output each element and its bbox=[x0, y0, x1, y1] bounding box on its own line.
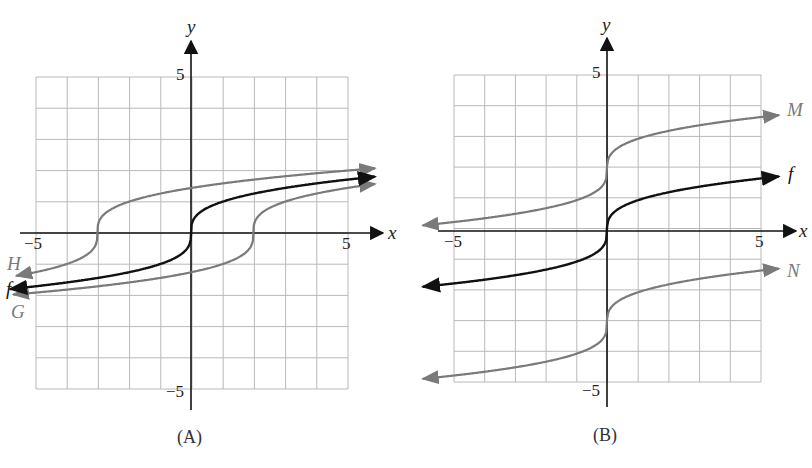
panel-a-y-label: y bbox=[185, 16, 196, 37]
panel-b-x-label: x bbox=[798, 220, 808, 241]
panel-b-tick-x-pos: 5 bbox=[755, 232, 764, 251]
panel-b-tick-y-neg: −5 bbox=[582, 381, 600, 400]
panel-a-x-label: x bbox=[387, 222, 397, 243]
panel-a-curve-h bbox=[16, 168, 375, 276]
figure-canvas: y x 5 −5 −5 5 H f G (A) y x 5 −5 −5 5 M … bbox=[0, 0, 812, 468]
panel-b-chart: y x 5 −5 −5 5 M f N (B) bbox=[423, 14, 808, 446]
panel-b-tick-y-pos: 5 bbox=[592, 63, 601, 82]
panel-b-curve-n bbox=[423, 269, 779, 379]
panel-a-label-h: H bbox=[6, 253, 22, 274]
panel-b-curve-m bbox=[423, 115, 779, 225]
panel-b-caption: (B) bbox=[593, 425, 617, 446]
panel-a-chart: y x 5 −5 −5 5 H f G (A) bbox=[6, 16, 397, 448]
panel-b-tick-x-neg: −5 bbox=[444, 232, 462, 251]
panel-a-tick-x-neg: −5 bbox=[24, 234, 42, 253]
panel-b-label-m: M bbox=[786, 99, 804, 120]
panel-a-label-g: G bbox=[11, 301, 25, 322]
panel-b-y-label: y bbox=[600, 14, 611, 35]
panel-b-label-f: f bbox=[788, 163, 796, 184]
panel-a-caption: (A) bbox=[177, 427, 202, 448]
panel-a-tick-y-pos: 5 bbox=[176, 65, 185, 84]
panel-a-tick-x-pos: 5 bbox=[342, 234, 351, 253]
panel-a-tick-y-neg: −5 bbox=[166, 382, 184, 401]
panel-b-label-n: N bbox=[786, 260, 801, 281]
